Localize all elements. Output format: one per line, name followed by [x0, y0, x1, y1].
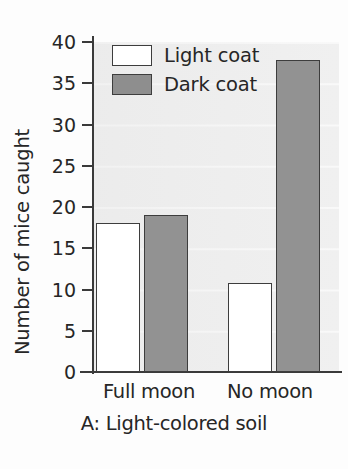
y-axis-tick	[82, 371, 93, 373]
y-axis-tick-label: 25	[16, 155, 76, 177]
legend-label-dark-coat: Dark coat	[164, 73, 257, 96]
y-axis-tick	[82, 124, 93, 126]
bar-full-moon-dark-coat	[144, 215, 188, 372]
y-axis-tick-label: 5	[16, 320, 76, 342]
legend-swatch-dark-coat	[112, 74, 152, 95]
y-axis-tick-label: 15	[16, 237, 76, 259]
y-axis-tick-label: 40	[16, 31, 76, 53]
y-axis-tick	[82, 206, 93, 208]
y-axis-tick	[82, 289, 93, 291]
legend-item-dark-coat: Dark coat	[112, 73, 259, 96]
y-axis-tick-label: 10	[16, 279, 76, 301]
y-axis-tick	[82, 82, 93, 84]
bar-chart-figure: Number of mice caught 0510152025303540 F…	[0, 0, 348, 469]
bar-no-moon-dark-coat	[276, 60, 320, 372]
y-axis-tick	[82, 330, 93, 332]
y-axis-tick-label: 30	[16, 114, 76, 136]
legend-label-light-coat: Light coat	[164, 44, 259, 67]
y-axis-tick	[82, 247, 93, 249]
bar-no-moon-light-coat	[228, 283, 272, 372]
y-axis-line	[92, 36, 94, 374]
y-axis-tick	[82, 165, 93, 167]
x-axis-label-full-moon: Full moon	[103, 380, 195, 403]
y-axis-tick-label: 0	[16, 361, 76, 383]
bar-full-moon-light-coat	[96, 223, 140, 372]
legend-item-light-coat: Light coat	[112, 44, 259, 67]
y-axis-tick	[82, 41, 93, 43]
figure-caption: A: Light-colored soil	[0, 412, 348, 435]
y-axis-tick-label: 20	[16, 196, 76, 218]
legend-swatch-light-coat	[112, 45, 152, 66]
legend: Light coat Dark coat	[112, 44, 259, 96]
x-axis-label-no-moon: No moon	[227, 380, 313, 403]
y-axis-tick-label: 35	[16, 72, 76, 94]
